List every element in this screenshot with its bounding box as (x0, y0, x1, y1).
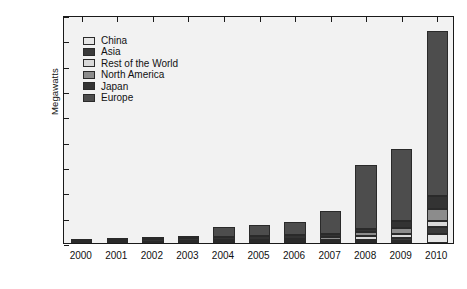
bar-segment[interactable] (427, 227, 448, 235)
legend-item[interactable]: Asia (83, 46, 178, 57)
plot-area: 02,0004,0006,0008,00010,00012,00014,0001… (63, 16, 454, 244)
bar-group[interactable] (284, 15, 305, 243)
legend-label: Europe (101, 92, 133, 103)
legend-swatch-icon (83, 37, 95, 45)
bar-segment[interactable] (355, 236, 376, 240)
bar-segment[interactable] (355, 232, 376, 236)
bar-segment[interactable] (213, 227, 234, 237)
y-tick-mark (64, 169, 69, 170)
legend-label: China (101, 35, 127, 46)
y-tick-mark (64, 245, 69, 246)
bar-segment[interactable] (391, 234, 412, 238)
x-tick-label: 2010 (406, 250, 466, 261)
bar-segment[interactable] (355, 240, 376, 243)
legend-item[interactable]: North America (83, 69, 178, 80)
bar-group[interactable] (320, 15, 341, 243)
bar-segment[interactable] (427, 209, 448, 222)
bar-segment[interactable] (427, 31, 448, 196)
bar-segment[interactable] (391, 238, 412, 241)
bar-segment[interactable] (249, 236, 270, 240)
bar-segment[interactable] (391, 228, 412, 234)
bar-segment[interactable] (178, 236, 199, 239)
bar-segment[interactable] (284, 222, 305, 235)
bar-group[interactable] (355, 15, 376, 243)
bar-segment[interactable] (320, 211, 341, 234)
bar-group[interactable] (391, 15, 412, 243)
y-tick-mark (64, 93, 69, 94)
legend-swatch-icon (83, 59, 95, 67)
bar-group[interactable] (427, 15, 448, 243)
legend-item[interactable]: Europe (83, 92, 178, 103)
chart-container: Megawatts 02,0004,0006,0008,00010,00012,… (0, 0, 467, 289)
y-tick-mark (64, 220, 69, 221)
bar-segment[interactable] (142, 239, 163, 241)
bar-segment[interactable] (355, 165, 376, 228)
bar-segment[interactable] (284, 235, 305, 239)
y-tick-mark (64, 68, 69, 69)
y-tick-mark (64, 194, 69, 195)
bar-segment[interactable] (71, 239, 92, 241)
bar-group[interactable] (213, 15, 234, 243)
legend-item[interactable]: China (83, 35, 178, 46)
y-tick-mark (64, 17, 69, 18)
bar-group[interactable] (178, 15, 199, 243)
bar-segment[interactable] (427, 196, 448, 209)
bar-segment[interactable] (391, 221, 412, 227)
bar-segment[interactable] (107, 238, 128, 240)
bar-group[interactable] (249, 15, 270, 243)
legend-swatch-icon (83, 82, 95, 90)
bar-segment[interactable] (391, 241, 412, 243)
legend-label: Rest of the World (101, 58, 178, 69)
legend-swatch-icon (83, 71, 95, 79)
y-tick-mark (64, 42, 69, 43)
y-tick-mark (64, 144, 69, 145)
legend-swatch-icon (83, 48, 95, 56)
y-axis-title: Megawatts (49, 32, 60, 152)
bar-segment[interactable] (142, 237, 163, 239)
bar-segment[interactable] (320, 237, 341, 240)
chart-legend: ChinaAsiaRest of the WorldNorth AmericaJ… (83, 35, 178, 103)
legend-swatch-icon (83, 94, 95, 102)
legend-label: Japan (101, 81, 128, 92)
y-tick-mark (64, 118, 69, 119)
bar-segment[interactable] (178, 238, 199, 241)
bar-segment[interactable] (427, 234, 448, 243)
bar-segment[interactable] (355, 229, 376, 232)
bar-segment[interactable] (427, 221, 448, 226)
legend-label: North America (101, 69, 164, 80)
legend-label: Asia (101, 46, 120, 57)
bar-segment[interactable] (213, 237, 234, 240)
bar-segment[interactable] (320, 234, 341, 237)
bar-segment[interactable] (284, 239, 305, 241)
legend-item[interactable]: Japan (83, 81, 178, 92)
legend-item[interactable]: Rest of the World (83, 58, 178, 69)
bar-segment[interactable] (391, 149, 412, 221)
bar-segment[interactable] (249, 225, 270, 236)
